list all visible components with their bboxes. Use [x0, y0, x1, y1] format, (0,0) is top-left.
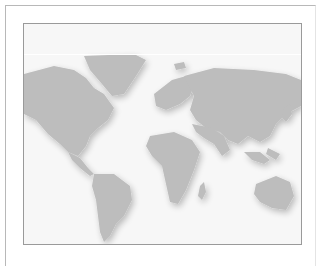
map-panel: [23, 23, 302, 245]
world-map-icon: [24, 24, 301, 244]
highlight-line: [24, 54, 301, 55]
